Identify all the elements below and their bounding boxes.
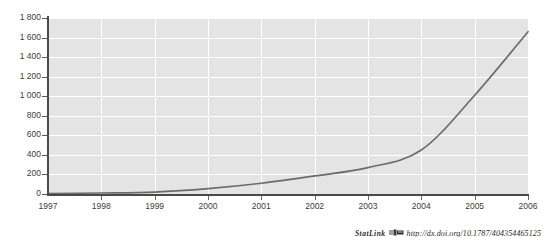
y-axis-tick [42, 135, 47, 136]
statlink-url[interactable]: http://dx.doi.org/10.1787/404354465125 [407, 229, 541, 237]
x-axis-tick [475, 196, 476, 200]
x-axis-tick-labels: 1997199819992000200120022003200420052006 [0, 0, 546, 237]
x-axis-tick [101, 196, 102, 200]
x-axis-tick [368, 196, 369, 200]
x-axis-tick-label: 2004 [394, 201, 448, 211]
chart-figure: (continued) 02004006008001 0001 2001 400… [0, 0, 546, 237]
x-axis-tick [155, 196, 156, 200]
y-axis-tick [42, 96, 47, 97]
y-axis-tick [42, 77, 47, 78]
x-axis-tick-label: 2003 [341, 201, 395, 211]
x-axis-tick-label: 2000 [181, 201, 235, 211]
y-axis-tick [42, 38, 47, 39]
y-axis-tick [42, 57, 47, 58]
y-axis-tick [42, 116, 47, 117]
x-axis-tick-label: 2002 [288, 201, 342, 211]
x-axis-tick-label: 2006 [501, 201, 546, 211]
y-axis-tick [42, 18, 47, 19]
x-axis-tick [208, 196, 209, 200]
y-axis-tick [42, 155, 47, 156]
x-axis-tick [421, 196, 422, 200]
statlink-label: StatLink [355, 229, 386, 237]
x-axis-tick-label: 1998 [74, 201, 128, 211]
x-axis-tick [315, 196, 316, 200]
y-axis-tick [42, 174, 47, 175]
x-axis-tick [528, 196, 529, 200]
x-axis-tick-label: 2001 [234, 201, 288, 211]
x-axis-tick-label: 1999 [128, 201, 182, 211]
x-axis-tick-label: 2005 [448, 201, 502, 211]
statlink-glyph-icon [389, 222, 404, 237]
y-axis-tick [42, 194, 47, 195]
statlink-footer[interactable]: StatLink http://dx.doi.org/10.1787/40435… [0, 222, 541, 237]
x-axis-tick [261, 196, 262, 200]
x-axis-tick-label: 1997 [21, 201, 75, 211]
